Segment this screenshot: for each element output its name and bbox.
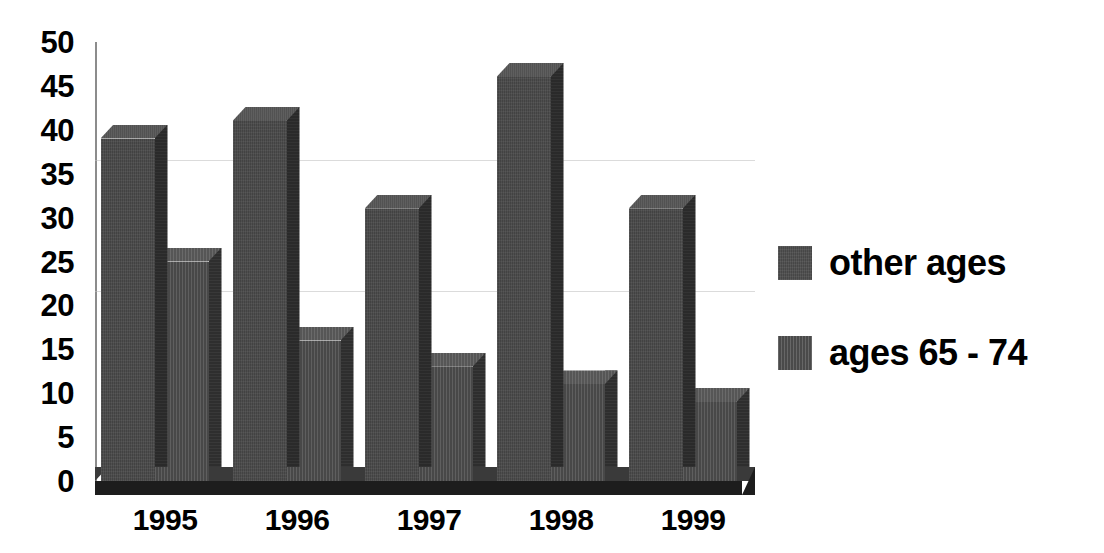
bar-front-face [497, 77, 551, 481]
y-axis-tick-label: 30 [41, 202, 74, 233]
swatch-other-ages [778, 246, 812, 280]
gridline [95, 160, 755, 161]
x-axis-tick-label: 1995 [133, 505, 198, 535]
bar-side-face [155, 125, 168, 467]
bar-side-face [473, 353, 486, 467]
y-axis-tick-label: 15 [41, 334, 74, 365]
y-axis-tick-label: 20 [41, 290, 74, 321]
bar-front-face [233, 121, 287, 481]
plot-area [95, 28, 755, 505]
bar-side-face [209, 248, 222, 468]
legend-label: ages 65 - 74 [829, 335, 1027, 371]
bar-front-face [101, 139, 155, 481]
bar-other-ages-1995 [101, 125, 155, 481]
chart-floor-front [95, 481, 742, 495]
bar-side-face [683, 195, 696, 467]
y-axis-tick-label: 10 [41, 378, 74, 409]
y-axis-tick-label: 50 [41, 27, 74, 58]
chart-legend: other agesages 65 - 74 [778, 232, 1098, 412]
x-axis-tick-label: 1996 [265, 505, 330, 535]
legend-item-other-ages[interactable]: other ages [778, 232, 1098, 294]
bar-other-ages-1998 [497, 63, 551, 481]
bar-side-face [551, 63, 564, 467]
bar-front-face [629, 209, 683, 481]
chart-floor-right-cap [742, 467, 755, 495]
bar-other-ages-1996 [233, 107, 287, 481]
bar-other-ages-1997 [365, 195, 419, 481]
y-axis-tick-label: 40 [41, 114, 74, 145]
bar-side-face [605, 370, 618, 467]
swatch-ages-65-74 [778, 336, 812, 370]
bar-other-ages-1999 [629, 195, 683, 481]
x-axis-tick-label: 1997 [397, 505, 462, 535]
y-axis-tick-label: 35 [41, 158, 74, 189]
y-axis-tick-label: 25 [41, 246, 74, 277]
x-axis-tick-label: 1999 [661, 505, 726, 535]
bar-side-face [287, 107, 300, 467]
bar-side-face [419, 195, 432, 467]
y-axis: 50454035302520151050 [0, 0, 84, 553]
y-axis-tick-label: 45 [41, 70, 74, 101]
bar-front-face [365, 209, 419, 481]
y-axis-tick-label: 5 [57, 422, 74, 453]
y-axis-tick-label: 0 [57, 466, 74, 497]
legend-label: other ages [829, 245, 1006, 281]
legend-item-ages-65-74[interactable]: ages 65 - 74 [778, 322, 1098, 384]
bar-chart: 50454035302520151050 other agesages 65 -… [0, 0, 1104, 553]
bar-side-face [341, 327, 354, 467]
x-axis-tick-label: 1998 [529, 505, 594, 535]
